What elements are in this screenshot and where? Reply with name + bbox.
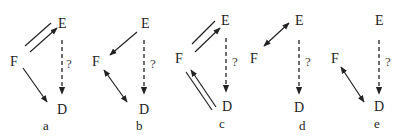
panel-e: E F D ? e (331, 13, 391, 131)
node-e: E (295, 13, 304, 28)
node-f: F (10, 54, 18, 69)
diagram-canvas: E F D ? a E F D ? b E F D ? c E F D (0, 0, 399, 137)
question-mark: ? (150, 56, 156, 71)
question-mark: ? (232, 54, 238, 69)
edge-d-f-plain (186, 72, 212, 110)
edge-f-e-arrow (30, 28, 57, 52)
panel-b: E F D ? b (92, 16, 156, 133)
edge-f-d-arrow (23, 68, 47, 102)
node-d: D (294, 100, 304, 115)
edge-e-f-arrow (110, 32, 137, 55)
node-e: E (221, 13, 230, 28)
node-f: F (250, 51, 258, 66)
caption-e: e (374, 116, 380, 131)
node-d: D (374, 99, 384, 114)
edge-f-d-double (341, 67, 364, 102)
question-mark: ? (385, 54, 391, 69)
node-e: E (141, 16, 150, 31)
edge-d-f-arrow (191, 70, 216, 107)
panel-d: E F D ? d (250, 13, 311, 133)
panel-c: E F D ? c (175, 13, 238, 131)
node-d: D (57, 102, 67, 117)
caption-a: a (43, 118, 49, 133)
node-d: D (222, 99, 232, 114)
caption-d: d (299, 118, 306, 133)
question-mark: ? (66, 56, 72, 71)
question-mark: ? (305, 54, 311, 69)
node-f: F (331, 51, 339, 66)
node-f: F (92, 54, 100, 69)
node-f: F (175, 51, 183, 66)
caption-b: b (136, 118, 143, 133)
edge-f-e-plain (25, 23, 51, 46)
edge-f-d-double (104, 70, 127, 102)
edge-f-e-plain (192, 21, 215, 44)
node-d: D (139, 102, 149, 117)
edge-e-f-double (264, 23, 289, 46)
node-e: E (375, 13, 384, 28)
caption-c: c (219, 116, 225, 131)
panel-a: E F D ? a (10, 16, 72, 133)
edge-f-e-arrow (195, 28, 220, 52)
node-e: E (58, 16, 67, 31)
